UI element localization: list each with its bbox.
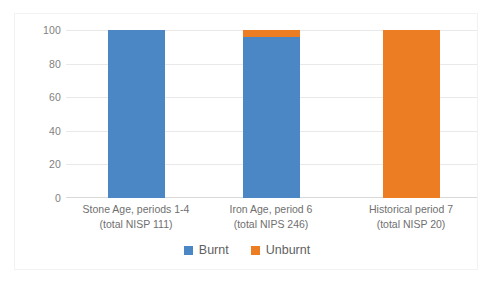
category-label-stone-age: Stone Age, periods 1-4 (total NISP 111) xyxy=(61,202,211,232)
bar-column-iron-age[interactable] xyxy=(243,30,300,198)
bar-segment-burnt[interactable] xyxy=(243,37,300,198)
category-label-line1: Stone Age, periods 1-4 xyxy=(83,203,190,215)
y-axis-tick-label: 80 xyxy=(17,58,61,69)
bar-stack xyxy=(108,30,165,198)
bar-column-stone-age[interactable] xyxy=(108,30,165,198)
bar-stack xyxy=(383,30,440,198)
category-label-line2: (total NISP 111) xyxy=(61,217,211,232)
category-label-historical: Historical period 7 (total NISP 20) xyxy=(336,202,486,232)
legend-label: Unburnt xyxy=(266,244,310,257)
y-axis-tick-label: 60 xyxy=(17,92,61,103)
chart-frame: 100 80 60 40 20 0 xyxy=(14,13,478,270)
y-axis: 100 80 60 40 20 0 xyxy=(15,30,61,198)
plot-area xyxy=(66,30,477,198)
chart-screenshot: 100 80 60 40 20 0 xyxy=(0,0,492,283)
y-axis-tick-label: 20 xyxy=(17,159,61,170)
bar-segment-unburnt[interactable] xyxy=(243,30,300,37)
category-label-iron-age: Iron Age, period 6 (total NIPS 246) xyxy=(196,202,346,232)
legend-swatch-icon xyxy=(251,246,260,255)
y-axis-tick-label: 40 xyxy=(17,126,61,137)
category-label-line2: (total NISP 20) xyxy=(336,217,486,232)
bar-segment-burnt[interactable] xyxy=(108,30,165,198)
category-label-line2: (total NIPS 246) xyxy=(196,217,346,232)
y-axis-tick-label: 0 xyxy=(17,193,61,204)
category-label-line1: Historical period 7 xyxy=(369,203,453,215)
bar-column-historical[interactable] xyxy=(383,30,440,198)
y-axis-tick-label: 100 xyxy=(17,25,61,36)
legend-swatch-icon xyxy=(184,246,193,255)
legend-item-unburnt[interactable]: Unburnt xyxy=(251,244,310,257)
bar-segment-unburnt[interactable] xyxy=(383,30,440,198)
bar-stack xyxy=(243,30,300,198)
chart-legend: Burnt Unburnt xyxy=(15,244,479,257)
legend-label: Burnt xyxy=(199,244,229,257)
category-label-line1: Iron Age, period 6 xyxy=(230,203,313,215)
x-axis-category-labels: Stone Age, periods 1-4 (total NISP 111) … xyxy=(66,202,477,236)
legend-item-burnt[interactable]: Burnt xyxy=(184,244,229,257)
